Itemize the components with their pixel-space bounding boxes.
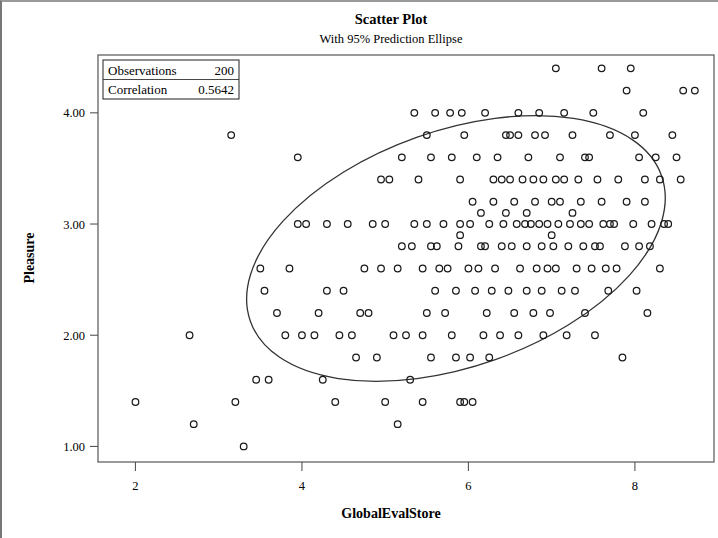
scatter-point [465,265,472,272]
scatter-point [257,265,264,272]
scatter-point [453,287,460,294]
legend-label-observations: Observations [108,63,177,78]
scatter-point [652,154,659,161]
scatter-point [444,265,451,272]
scatter-point [578,221,585,228]
scatter-point [261,287,268,294]
scatter-point [677,176,684,183]
scatter-point [548,232,555,239]
scatter-point [336,332,343,339]
scatter-point [636,243,643,250]
scatter-point [503,210,510,217]
scatter-point [498,243,505,250]
scatter-point [544,265,551,272]
scatter-point [632,132,639,139]
scatter-point [324,221,331,228]
scatter-point [613,265,620,272]
scatter-point [636,154,643,161]
scatter-point [399,154,406,161]
scatter-point [415,176,422,183]
scatter-point [458,110,465,117]
scatter-point [648,221,655,228]
scatter-point [390,332,397,339]
scatter-point [553,265,560,272]
scatter-point [548,198,555,205]
scatter-point [382,399,389,406]
scatter-point [461,132,468,139]
scatter-point [592,332,599,339]
scatter-point [602,265,609,272]
scatter-point [492,265,499,272]
scatter-point [513,221,520,228]
scatter-point [411,110,418,117]
scatter-point [386,176,393,183]
scatter-point [424,310,431,317]
y-tick-label: 3.00 [63,218,85,232]
scatter-point [382,221,389,228]
scatter-point [349,332,356,339]
scatter-point [432,287,439,294]
scatter-point [228,132,235,139]
chart-page: Scatter Plot With 95% Prediction Ellipse… [0,0,718,538]
x-tick-label: 2 [132,479,138,493]
scatter-point [555,221,562,228]
scatter-point [615,176,622,183]
x-axis-ticks: 2468 [132,462,638,493]
legend-value-observations: 200 [215,63,235,78]
scatter-point [550,243,557,250]
scatter-point [353,354,360,361]
scatter-point [428,354,435,361]
scatter-point [642,176,649,183]
scatter-point [497,332,504,339]
scatter-point [567,221,574,228]
scatter-point [515,332,522,339]
scatter-point [357,310,364,317]
scatter-point [482,243,489,250]
y-axis-label: Pleasure [22,232,37,283]
scatter-point [424,221,431,228]
scatter-point [467,221,474,228]
scatter-point [582,154,589,161]
legend-value-correlation: 0.5642 [198,82,234,97]
y-tick-label: 2.00 [63,329,85,343]
scatter-point [265,376,272,383]
scatter-point [482,110,489,117]
scatter-point [525,154,532,161]
scatter-point [532,198,539,205]
scatter-point [600,221,607,228]
scatter-point [507,176,514,183]
scatter-point [432,110,439,117]
scatter-point [561,110,568,117]
scatter-point [455,243,462,250]
scatter-point [448,332,455,339]
x-tick-label: 4 [299,479,306,493]
scatter-point [365,310,372,317]
scatter-point [294,154,301,161]
scatter-point [436,265,443,272]
y-axis-ticks: 1.002.003.004.00 [63,106,98,454]
scatter-point [132,399,139,406]
scatter-point [409,243,416,250]
scatter-point [633,287,640,294]
scatter-point [294,221,301,228]
scatter-point [605,287,612,294]
scatter-point [563,332,570,339]
scatter-point [507,132,514,139]
scatter-point [680,87,687,94]
scatter-point [324,287,331,294]
scatter-point [607,132,614,139]
legend-label-correlation: Correlation [108,82,168,97]
scatter-point [530,310,537,317]
scatter-point [344,221,351,228]
scatter-point [572,287,579,294]
scatter-point [253,376,260,383]
scatter-point [442,310,449,317]
scatter-point [511,198,518,205]
scatter-point [299,332,306,339]
scatter-point [598,65,605,72]
scatter-point [315,310,322,317]
scatter-point [232,399,239,406]
scatter-point [472,287,479,294]
scatter-point [488,287,495,294]
scatter-point [469,198,476,205]
